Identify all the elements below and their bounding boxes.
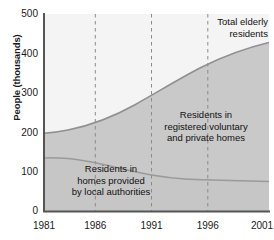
annotation-total-elderly-residents: Total elderly residents bbox=[176, 16, 268, 39]
y-axis-title: People (thousands) bbox=[11, 31, 22, 125]
x-tick-label-1981: 1981 bbox=[24, 220, 64, 231]
y-tick-label-0: 0 bbox=[8, 205, 38, 216]
y-tick-label-400: 400 bbox=[8, 48, 38, 59]
area-chart: People (thousands) 500 400 300 200 100 0… bbox=[0, 0, 274, 240]
annotation-local-authority-homes: Residents in homes provided by local aut… bbox=[52, 163, 170, 198]
x-tick-label-1986: 1986 bbox=[75, 220, 115, 231]
y-tick-label-100: 100 bbox=[8, 166, 38, 177]
annotation-registered-voluntary-private-homes: Residents in registered voluntary and pr… bbox=[146, 109, 266, 144]
y-tick-label-300: 300 bbox=[8, 87, 38, 98]
x-tick-label-1996: 1996 bbox=[188, 220, 228, 231]
y-tick-label-200: 200 bbox=[8, 127, 38, 138]
x-tick-label-1991: 1991 bbox=[132, 220, 172, 231]
x-tick-label-2001: 2001 bbox=[242, 220, 274, 231]
y-tick-label-500: 500 bbox=[8, 8, 38, 19]
